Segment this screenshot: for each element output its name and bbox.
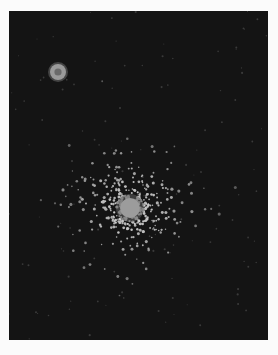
star-cluster-plate xyxy=(9,11,268,340)
cluster-core xyxy=(120,198,140,218)
star-field xyxy=(9,11,268,340)
